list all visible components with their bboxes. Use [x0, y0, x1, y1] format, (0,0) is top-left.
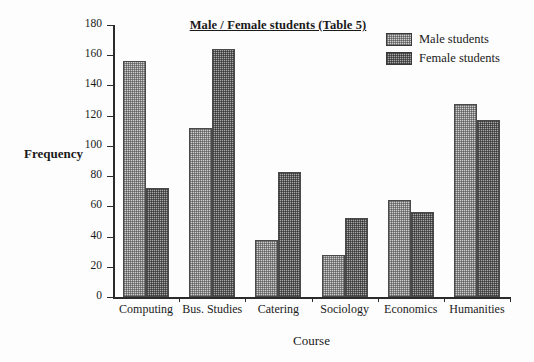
y-tick: 60: [107, 206, 113, 207]
bar-humanities-female: [477, 120, 500, 297]
y-tick-label: 100: [72, 138, 102, 150]
y-tick: 20: [107, 267, 113, 268]
bar-bus-studies-female: [212, 49, 235, 297]
y-axis-line: [113, 25, 115, 297]
y-tick-label: 20: [72, 259, 102, 271]
bar-sociology-female: [345, 218, 368, 297]
bar-catering-male: [255, 240, 278, 297]
y-tick-label: 180: [72, 17, 102, 29]
category-label: Bus. Studies: [179, 302, 245, 317]
y-tick-label: 120: [72, 108, 102, 120]
category-label: Catering: [245, 302, 311, 317]
y-tick: 120: [107, 116, 113, 117]
y-tick-label: 140: [72, 77, 102, 89]
y-tick-label: 80: [72, 168, 102, 180]
bar-chart: Male / Female students (Table 5) Male st…: [0, 0, 534, 362]
y-tick: 180: [107, 25, 113, 26]
y-tick: 140: [107, 85, 113, 86]
bar-sociology-male: [322, 255, 345, 297]
y-tick: 0: [107, 297, 113, 298]
category-label: Computing: [113, 302, 179, 317]
bar-bus-studies-male: [189, 128, 212, 297]
category-label: Economics: [378, 302, 444, 317]
bar-economics-female: [411, 212, 434, 297]
plot-area: 020406080100120140160180 ComputingBus. S…: [113, 25, 510, 297]
y-tick-label: 0: [72, 289, 102, 301]
x-tick: [510, 297, 511, 302]
y-tick: 100: [107, 146, 113, 147]
y-tick: 40: [107, 237, 113, 238]
y-tick-label: 160: [72, 47, 102, 59]
y-tick-label: 60: [72, 198, 102, 210]
bar-economics-male: [388, 200, 411, 297]
y-tick: 160: [107, 55, 113, 56]
bar-computing-female: [146, 188, 169, 297]
category-label: Humanities: [444, 302, 510, 317]
y-tick-label: 40: [72, 229, 102, 241]
bar-computing-male: [123, 61, 146, 297]
category-label: Sociology: [312, 302, 378, 317]
bar-catering-female: [278, 172, 301, 297]
x-axis-label: Course: [113, 333, 510, 349]
bar-humanities-male: [454, 104, 477, 297]
y-tick: 80: [107, 176, 113, 177]
